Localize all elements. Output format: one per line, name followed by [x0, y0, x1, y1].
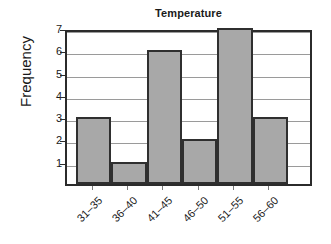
bars-layer: [67, 32, 310, 184]
bar: [253, 117, 288, 184]
y-axis-title: Frequency: [17, 2, 34, 142]
bar: [76, 117, 111, 184]
x-axis-tick-label: 31–35: [66, 194, 104, 232]
bar: [111, 162, 146, 184]
plot-area: [65, 30, 312, 186]
chart-title: Temperature: [65, 6, 312, 20]
x-axis-tick-label: 51–55: [207, 194, 245, 232]
x-axis-tick-label: 41–45: [137, 194, 175, 232]
x-axis-tick-label: 56–60: [243, 194, 281, 232]
bar: [182, 139, 217, 184]
x-axis-tick-label: 36–40: [101, 194, 139, 232]
x-axis-tick-labels: 31–3536–4041–4546–5051–5556–60: [65, 186, 312, 244]
bar: [217, 28, 252, 184]
x-axis-tick-label: 46–50: [172, 194, 210, 232]
temperature-histogram-figure: Temperature Frequency 1234567 31–3536–40…: [0, 0, 331, 244]
bar: [147, 50, 182, 184]
